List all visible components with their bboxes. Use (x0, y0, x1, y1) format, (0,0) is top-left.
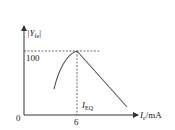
y-tick-100: 100 (26, 53, 40, 63)
yfe-curve (54, 51, 127, 107)
chart-canvas: |Yfe| 100 0 6 IEQ Ie/mA (0, 0, 175, 130)
x-tick-6: 6 (74, 117, 79, 127)
y-axis-label: |Yfe| (27, 28, 41, 39)
origin-label: 0 (16, 113, 21, 123)
x-axis-label: Ie/mA (139, 110, 162, 121)
ieq-label: IEQ (81, 100, 94, 111)
